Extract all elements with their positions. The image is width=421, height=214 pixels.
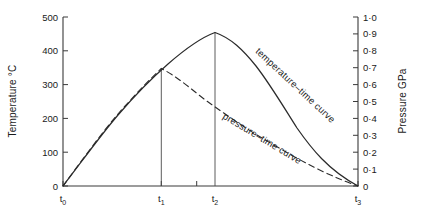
right-tick-label-0-2: 0·2 xyxy=(363,147,377,158)
right-tick-label-0-3: 0·3 xyxy=(363,130,377,141)
right-tick-label-0-1: 0·1 xyxy=(363,164,377,175)
x-tick-label-t2-sub: 2 xyxy=(214,199,218,206)
x-tick-label-t0: t0 xyxy=(60,193,67,206)
x-tick-label-t3-sub: 3 xyxy=(357,199,361,206)
x-tick-label-t1-sub: 1 xyxy=(161,199,165,206)
right-tick-label-1-0: 1·0 xyxy=(363,12,377,23)
right-axis-title: Pressure GPa xyxy=(397,68,408,133)
left-tick-label-500: 500 xyxy=(42,12,58,23)
right-tick-label-0-9: 0·9 xyxy=(363,28,377,39)
left-axis-title: Temperature °C xyxy=(7,65,18,138)
x-tick-label-t1: t1 xyxy=(158,193,165,206)
left-axis-ticks xyxy=(63,17,68,186)
x-tick-label-t3: t3 xyxy=(355,193,362,206)
x-axis-ticks xyxy=(63,181,358,186)
left-tick-label-100: 100 xyxy=(42,147,58,158)
temperature-curve-label: temperature–time curve xyxy=(254,45,338,124)
chart-figure: 0 100 200 300 400 500 0 0·1 0·2 0·3 0·4 … xyxy=(0,0,421,214)
left-tick-label-300: 300 xyxy=(42,79,58,90)
right-axis-ticks xyxy=(353,17,358,186)
left-tick-label-200: 200 xyxy=(42,113,58,124)
right-tick-label-0-5: 0·5 xyxy=(363,96,377,107)
left-tick-label-400: 400 xyxy=(42,45,58,56)
right-tick-label-0-4: 0·4 xyxy=(363,113,377,124)
left-tick-label-0: 0 xyxy=(53,181,58,192)
right-tick-label-0-7: 0·7 xyxy=(363,62,377,73)
x-tick-label-t2: t2 xyxy=(212,193,219,206)
right-tick-label-0-8: 0·8 xyxy=(363,45,377,56)
right-tick-label-0-6: 0·6 xyxy=(363,79,377,90)
pressure-time-curve xyxy=(63,69,358,187)
plot-area: 0 100 200 300 400 500 0 0·1 0·2 0·3 0·4 … xyxy=(0,0,421,214)
right-tick-label-0: 0 xyxy=(363,181,368,192)
x-tick-label-t0-sub: 0 xyxy=(62,199,66,206)
